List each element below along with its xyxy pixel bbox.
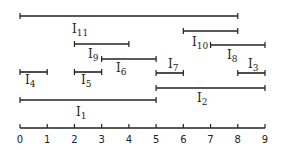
interval-label: I2 <box>197 91 207 107</box>
number-line-axis: 0123456789 <box>17 124 268 145</box>
interval-i8: I8 <box>211 42 265 64</box>
axis-tick-label: 9 <box>262 134 268 145</box>
interval-label: I1 <box>76 105 86 121</box>
interval-i4: I4 <box>20 69 47 89</box>
axis-tick-label: 0 <box>17 134 23 145</box>
interval-i2: I2 <box>156 85 265 107</box>
axis-tick-label: 8 <box>235 134 241 145</box>
interval-label: I8 <box>227 48 238 64</box>
interval-label: I10 <box>192 35 208 51</box>
interval-label: I9 <box>88 47 99 63</box>
interval-label: I7 <box>168 57 179 73</box>
interval-i7: I7 <box>156 57 183 76</box>
interval-i1: I1 <box>20 97 156 121</box>
axis-tick-label: 6 <box>180 134 186 145</box>
interval-label: I6 <box>116 61 127 77</box>
interval-i5: I5 <box>74 69 101 89</box>
axis-tick-label: 2 <box>71 134 77 145</box>
axis-tick-label: 5 <box>153 134 159 145</box>
interval-label: I3 <box>248 57 259 73</box>
interval-i3: I3 <box>238 57 265 76</box>
interval-label: I5 <box>81 73 92 89</box>
interval-diagram: I11I10I9I8I6I7I3I4I5I2I1 0123456789 <box>0 0 282 150</box>
interval-label: I4 <box>25 73 36 89</box>
axis-tick-label: 3 <box>98 134 104 145</box>
axis-tick-label: 4 <box>126 134 132 145</box>
interval-i6: I6 <box>102 56 156 77</box>
axis-tick-label: 7 <box>207 134 213 145</box>
interval-label: I11 <box>72 22 88 38</box>
interval-i11: I11 <box>20 13 238 38</box>
axis-tick-label: 1 <box>44 134 50 145</box>
interval-group: I11I10I9I8I6I7I3I4I5I2I1 <box>20 13 265 121</box>
